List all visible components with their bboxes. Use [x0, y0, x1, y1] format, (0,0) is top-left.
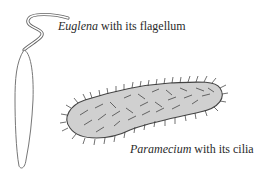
- paramecium-caption: Paramecium with its cilia: [130, 142, 254, 157]
- euglena-body: [15, 50, 33, 168]
- euglena-caption-rest: with its flagellum: [98, 19, 186, 33]
- euglena-caption: Euglena with its flagellum: [58, 19, 186, 34]
- paramecium: [60, 76, 228, 145]
- euglena-name: Euglena: [58, 19, 98, 33]
- paramecium-name: Paramecium: [130, 142, 191, 156]
- paramecium-caption-rest: with its cilia: [191, 142, 253, 156]
